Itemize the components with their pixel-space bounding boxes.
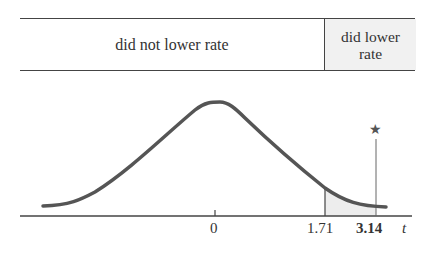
star-marker-icon: ★ [369,121,382,138]
tick-label-test-statistic: 3.14 [356,220,382,237]
axis-variable-label: t [402,220,406,237]
density-curve [43,102,386,207]
tick-label-zero: 0 [210,220,218,237]
tick-label-critical-value: 1.71 [307,220,333,237]
t-distribution-chart [0,0,430,256]
